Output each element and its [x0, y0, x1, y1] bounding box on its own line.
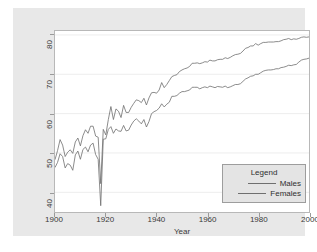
y-axis-tick-mark-50	[50, 153, 54, 154]
legend-box[interactable]: Legend Males Females	[222, 164, 306, 203]
legend-title: Legend	[227, 168, 301, 177]
x-axis-tick-mark-1900	[54, 213, 55, 217]
y-axis-tick-70: 70	[27, 69, 49, 79]
y-axis-tick-50: 50	[27, 148, 49, 158]
y-axis-tick-mark-40	[50, 193, 54, 194]
legend-line-swatch-females	[238, 193, 266, 194]
legend-line-swatch-males	[248, 183, 276, 184]
legend-label-females: Females	[270, 189, 301, 198]
y-axis-tick-label-50: 50	[45, 153, 54, 175]
x-axis-tick-mark-1960	[208, 213, 209, 217]
y-axis-tick-label-40: 40	[45, 193, 54, 215]
legend-label-males: Males	[280, 179, 301, 188]
y-axis-tick-mark-60	[50, 114, 54, 115]
y-axis-tick-80: 80	[27, 29, 49, 39]
x-axis-tick-label-2000: 2000	[290, 215, 317, 224]
y-axis-tick-mark-70	[50, 74, 54, 75]
y-axis-tick-label-60: 60	[45, 113, 54, 135]
y-axis-tick-label-80: 80	[45, 33, 54, 55]
chart-canvas: 4050607080 190019201940196019802000 Year…	[13, 8, 305, 236]
y-axis-tick-label-70: 70	[45, 73, 54, 95]
y-axis-tick-40: 40	[27, 188, 49, 198]
x-axis-tick-mark-1920	[105, 213, 106, 217]
x-axis-tick-mark-2000	[310, 213, 311, 217]
x-axis-tick-mark-1940	[156, 213, 157, 217]
x-axis-tick-mark-1980	[259, 213, 260, 217]
chart-screenshot: 4050607080 190019201940196019802000 Year…	[0, 0, 317, 252]
y-axis-tick-60: 60	[27, 109, 49, 119]
legend-entry-females[interactable]: Females	[227, 189, 301, 198]
y-axis-tick-mark-80	[50, 34, 54, 35]
legend-entry-males[interactable]: Males	[227, 179, 301, 188]
x-axis-title: Year	[54, 227, 310, 236]
series-line-females	[55, 37, 309, 184]
